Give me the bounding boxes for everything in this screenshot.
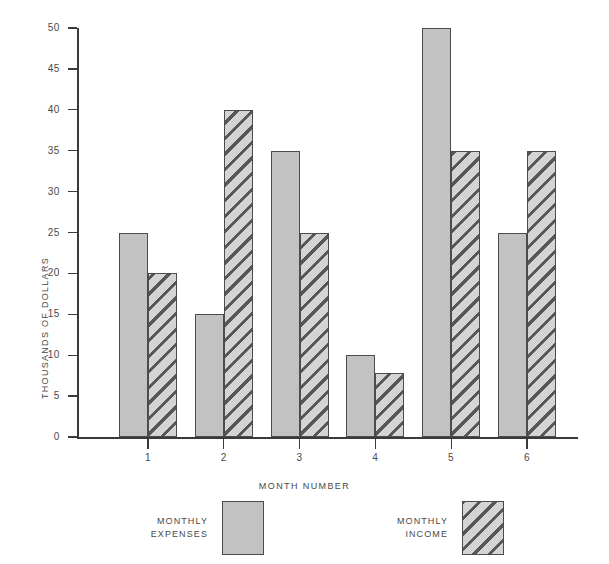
- y-tick-mark: [68, 232, 77, 233]
- bar-income: [527, 151, 556, 437]
- x-tick-mark: [147, 438, 148, 449]
- y-tick-mark: [68, 68, 77, 69]
- bar-expenses: [346, 355, 375, 437]
- legend-swatch-expenses: [222, 501, 264, 555]
- x-tick-label: 3: [280, 452, 320, 463]
- x-tick-label: 6: [507, 452, 547, 463]
- y-tick-label: 45: [26, 63, 60, 74]
- bar-expenses: [119, 233, 148, 438]
- legend-item-income: MONTHLY INCOME: [376, 501, 504, 555]
- y-tick-mark: [68, 150, 77, 151]
- bar-expenses: [498, 233, 527, 438]
- y-tick-mark: [68, 395, 77, 396]
- x-axis-title: MONTH NUMBER: [0, 481, 609, 491]
- legend-label-income: MONTHLY INCOME: [376, 515, 448, 541]
- y-tick-mark: [68, 27, 77, 28]
- bar-chart: 05101520253035404550 123456 MONTH NUMBER…: [0, 0, 609, 564]
- y-tick-label: 30: [26, 186, 60, 197]
- bar-income: [300, 233, 329, 438]
- y-tick-label: 0: [26, 431, 60, 442]
- x-tick-mark: [299, 438, 300, 449]
- legend-label-expenses: MONTHLY EXPENSES: [136, 515, 208, 541]
- y-tick-mark: [68, 191, 77, 192]
- bar-income: [375, 373, 404, 437]
- y-tick-label: 50: [26, 22, 60, 33]
- x-tick-mark: [526, 438, 527, 449]
- chart-legend: MONTHLY EXPENSES MONTHLY INCOME: [0, 499, 609, 561]
- bars-layer: [78, 28, 578, 437]
- bar-income: [451, 151, 480, 437]
- y-tick-mark: [68, 314, 77, 315]
- x-tick-label: 1: [128, 452, 168, 463]
- bar-income: [148, 273, 177, 437]
- y-axis-title: THOUSANDS OF DOLLARS: [40, 228, 50, 428]
- x-axis-line: [77, 437, 578, 439]
- x-tick-label: 4: [355, 452, 395, 463]
- y-tick-label: 40: [26, 104, 60, 115]
- y-axis-title-anchor: THOUSANDS OF DOLLARS: [25, 130, 26, 290]
- bar-expenses: [271, 151, 300, 437]
- y-tick-mark: [68, 273, 77, 274]
- x-tick-mark: [375, 438, 376, 449]
- x-tick-label: 5: [431, 452, 471, 463]
- legend-item-expenses: MONTHLY EXPENSES: [136, 501, 264, 555]
- bar-income: [224, 110, 253, 437]
- x-tick-mark: [451, 438, 452, 449]
- x-tick-mark: [223, 438, 224, 449]
- y-tick-mark: [68, 355, 77, 356]
- y-tick-mark: [68, 436, 77, 437]
- legend-swatch-income: [462, 501, 504, 555]
- y-tick-mark: [68, 109, 77, 110]
- bar-expenses: [195, 314, 224, 437]
- y-tick-label: 35: [26, 145, 60, 156]
- x-tick-label: 2: [204, 452, 244, 463]
- bar-expenses: [422, 28, 451, 437]
